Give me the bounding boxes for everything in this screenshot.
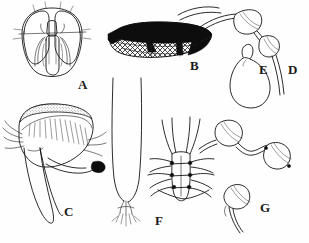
figure-a-head [13, 2, 91, 77]
figure-label-c: C [64, 205, 74, 218]
figure-b-wing [108, 7, 221, 58]
figure-label-b: B [190, 59, 199, 72]
figure-g-spermathecae-group [199, 120, 291, 233]
figure-f-left-lobe [112, 78, 142, 226]
figure-label-a: A [78, 78, 88, 91]
figure-label-d: D [288, 63, 298, 76]
figure-label-f: F [155, 214, 163, 227]
figure-label-e: E [259, 63, 268, 76]
figure-f-segment [148, 117, 214, 201]
figure-c-genitalia [3, 104, 106, 223]
figure-label-g: G [260, 201, 271, 214]
figure-plate: A B C D E F G [0, 0, 309, 243]
